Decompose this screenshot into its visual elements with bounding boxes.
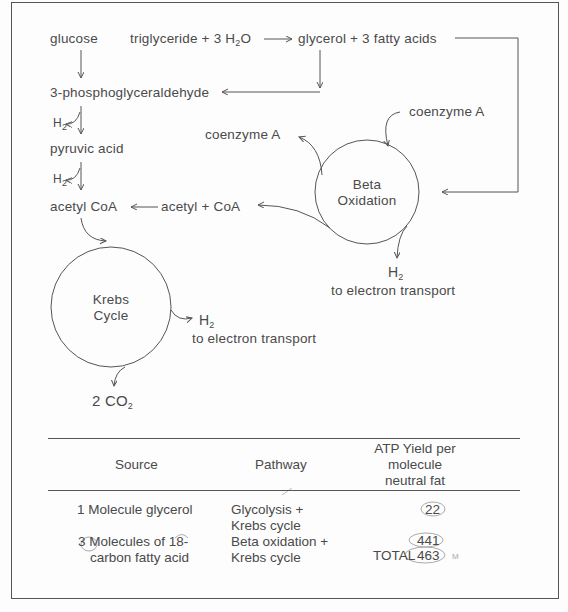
krebs-cycle-label: KrebsCycle [60, 292, 162, 324]
label-h2-b: H2 [53, 172, 67, 188]
row2-yield: 441 [417, 533, 440, 549]
row2-pathway: Beta oxidation + Krebs cycle [231, 534, 328, 566]
beta-oxidation-label: BetaOxidation [320, 177, 414, 209]
header-pathway: Pathway [255, 457, 307, 473]
node-glycerol-fatty-acids: glycerol + 3 fatty acids [298, 31, 437, 46]
table-top-rule [48, 438, 520, 439]
label-krebs-electron-transport: to electron transport [192, 331, 316, 346]
table-header-rule [48, 490, 520, 491]
label-h2-a: H2 [53, 116, 67, 132]
label-beta-electron-transport: to electron transport [331, 283, 455, 298]
row1-pathway: Glycolysis + Krebs cycle [231, 502, 303, 534]
label-h2-beta: H2 [388, 264, 404, 282]
node-triglyceride: triglyceride + 3 H2O [130, 31, 251, 48]
row1-yield: 22 [425, 502, 440, 518]
total-value: 463 [417, 548, 440, 564]
node-acetyl-coa: acetyl CoA [50, 199, 117, 214]
row2-source: 3 Molecules of 18- carbon fatty acid [78, 534, 189, 566]
node-glucose: glucose [50, 31, 98, 46]
handwritten-mark: M [452, 552, 459, 561]
label-coenzyme-a-in: coenzyme A [409, 104, 485, 119]
label-h2-krebs: H2 [199, 312, 215, 330]
row1-source: 1 Molecule glycerol [77, 502, 193, 518]
node-acetyl-plus-coa: acetyl + CoA [161, 199, 240, 214]
node-pyruvic-acid: pyruvic acid [50, 141, 124, 156]
label-coenzyme-a-out: coenzyme A [205, 127, 281, 142]
total-label: TOTAL [373, 548, 415, 564]
label-2-co2: 2 CO2 [92, 392, 133, 411]
header-source: Source [115, 457, 158, 473]
node-3-phosphoglyceraldehyde: 3-phosphoglyceraldehyde [50, 85, 209, 100]
header-atp-yield: ATP Yield per molecule neutral fat [355, 441, 475, 489]
